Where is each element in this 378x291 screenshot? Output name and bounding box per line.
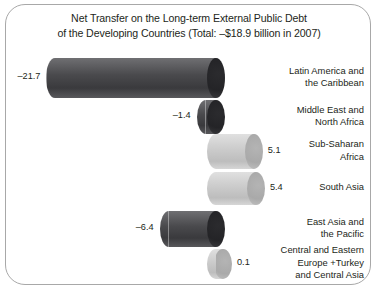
bar-body bbox=[55, 58, 216, 98]
bar-end-cap bbox=[245, 134, 263, 169]
category-label-4: South Asia bbox=[319, 181, 364, 193]
bar-6 bbox=[216, 249, 223, 279]
category-label-6: Central and Eastern Europe +Turkey and C… bbox=[281, 244, 364, 281]
bar-5 bbox=[169, 211, 216, 247]
value-label-3: 5.1 bbox=[268, 145, 281, 155]
bar-3 bbox=[216, 134, 254, 169]
bar-2 bbox=[206, 100, 216, 134]
value-label-5: –6.4 bbox=[136, 222, 154, 232]
bar-end-cap bbox=[247, 172, 265, 205]
bar-4 bbox=[216, 172, 256, 205]
value-label-6: 0.1 bbox=[237, 257, 250, 267]
value-label-1: –21.7 bbox=[17, 71, 40, 81]
cylinder-bar-chart: –21.7Latin America and the Caribbean–1.4… bbox=[0, 0, 378, 291]
bar-end-cap bbox=[214, 249, 232, 279]
value-label-4: 5.4 bbox=[270, 182, 283, 192]
bar-end-cap bbox=[207, 100, 225, 134]
category-label-5: East Asia and the Pacific bbox=[307, 216, 364, 241]
value-label-2: –1.4 bbox=[173, 110, 191, 120]
bar-end-cap bbox=[207, 58, 225, 98]
category-label-1: Latin America and the Caribbean bbox=[289, 65, 364, 90]
bar-end-cap bbox=[207, 211, 225, 247]
category-label-3: Sub-Saharan Africa bbox=[309, 138, 364, 163]
category-label-2: Middle East and North Africa bbox=[297, 104, 364, 129]
bar-1 bbox=[55, 58, 216, 98]
